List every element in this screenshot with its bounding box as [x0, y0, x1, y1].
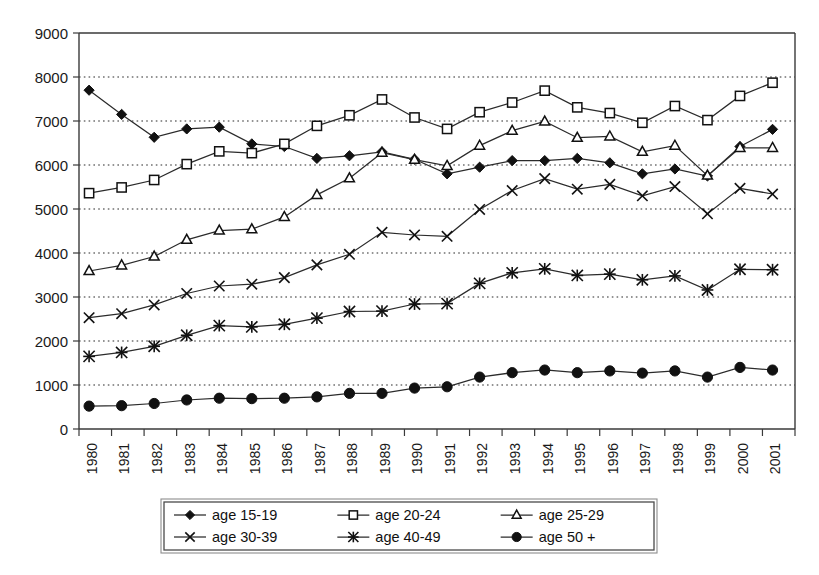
data-point — [441, 298, 453, 310]
data-point — [246, 321, 258, 333]
data-point — [150, 175, 159, 184]
x-tick-label: 1994 — [540, 443, 556, 474]
data-point — [475, 108, 484, 117]
data-point — [670, 366, 680, 376]
data-point — [442, 382, 452, 392]
data-point — [703, 116, 712, 125]
x-tick-label: 1996 — [605, 443, 621, 474]
y-tick-label: 4000 — [35, 245, 68, 262]
y-tick-label: 0 — [60, 421, 68, 438]
x-tick-label: 1998 — [670, 443, 686, 474]
data-point — [247, 149, 256, 158]
data-point — [213, 320, 225, 332]
x-tick-label: 1990 — [409, 443, 425, 474]
data-point — [215, 147, 224, 156]
x-tick-label: 1983 — [182, 443, 198, 474]
data-point — [735, 91, 744, 100]
data-point — [84, 401, 94, 411]
chart-background — [0, 0, 819, 575]
legend-label: age 50 + — [539, 529, 596, 545]
data-point — [377, 388, 387, 398]
legend-label: age 20-24 — [375, 507, 440, 523]
x-tick-label: 1997 — [637, 443, 653, 474]
y-tick-label: 8000 — [35, 69, 68, 86]
chart-canvas: 0100020003000400050006000700080009000 19… — [0, 0, 819, 575]
data-point — [117, 401, 127, 411]
x-tick-label: 1986 — [279, 443, 295, 474]
data-point — [279, 393, 289, 403]
legend-label: age 30-39 — [212, 529, 277, 545]
data-point — [506, 267, 518, 279]
data-point — [767, 264, 779, 276]
data-point — [278, 318, 290, 330]
marker-open-square — [349, 511, 357, 519]
data-point — [573, 103, 582, 112]
data-point — [312, 121, 321, 130]
data-point — [410, 113, 419, 122]
data-point — [735, 362, 745, 372]
x-tick-label: 1992 — [474, 443, 490, 474]
data-point — [345, 111, 354, 120]
line-chart-figure: 0100020003000400050006000700080009000 19… — [0, 0, 819, 575]
data-point — [182, 160, 191, 169]
data-point — [344, 388, 354, 398]
data-point — [571, 270, 583, 282]
data-point — [247, 394, 257, 404]
data-point — [605, 366, 615, 376]
data-point — [475, 372, 485, 382]
data-point — [442, 124, 451, 133]
data-point — [637, 368, 647, 378]
x-tick-label: 1980 — [84, 443, 100, 474]
legend-label: age 40-49 — [375, 529, 440, 545]
data-point — [377, 95, 386, 104]
x-tick-label: 1981 — [116, 443, 132, 474]
data-point — [182, 395, 192, 405]
marker-filled-circle — [512, 532, 521, 541]
data-point — [540, 365, 550, 375]
data-point — [409, 383, 419, 393]
data-point — [474, 277, 486, 289]
x-tick-label: 1985 — [247, 443, 263, 474]
y-tick-label: 7000 — [35, 113, 68, 130]
data-point — [636, 274, 648, 286]
data-point — [312, 392, 322, 402]
x-tick-label: 2000 — [735, 443, 751, 474]
data-point — [734, 263, 746, 275]
y-tick-label: 6000 — [35, 157, 68, 174]
y-tick-label: 1000 — [35, 377, 68, 394]
data-point — [149, 398, 159, 408]
data-point — [507, 368, 517, 378]
data-point — [702, 284, 714, 296]
x-tick-label: 1987 — [312, 443, 328, 474]
data-point — [508, 98, 517, 107]
y-tick-label: 3000 — [35, 289, 68, 306]
data-point — [767, 365, 777, 375]
y-tick-label: 9000 — [35, 25, 68, 42]
y-tick-label: 5000 — [35, 201, 68, 218]
data-point — [638, 118, 647, 127]
x-tick-label: 1989 — [377, 443, 393, 474]
data-point — [604, 268, 616, 280]
data-point — [670, 101, 679, 110]
data-point — [181, 329, 193, 341]
data-point — [605, 108, 614, 117]
x-tick-label: 2001 — [767, 443, 783, 474]
x-tick-label: 1999 — [702, 443, 718, 474]
marker-asterisk — [348, 532, 359, 543]
data-point — [117, 183, 126, 192]
data-point — [768, 78, 777, 87]
x-tick-label: 1988 — [344, 443, 360, 474]
data-point — [148, 340, 160, 352]
data-point — [409, 298, 421, 310]
x-tick-label: 1984 — [214, 443, 230, 474]
data-point — [344, 306, 356, 318]
legend-label: age 25-29 — [539, 507, 604, 523]
x-tick-label: 1993 — [507, 443, 523, 474]
y-tick-label: 2000 — [35, 333, 68, 350]
data-point — [214, 393, 224, 403]
data-point — [669, 270, 681, 282]
x-tick-label: 1991 — [442, 443, 458, 474]
x-tick-label: 1995 — [572, 443, 588, 474]
data-point — [540, 86, 549, 95]
x-tick-label: 1982 — [149, 443, 165, 474]
